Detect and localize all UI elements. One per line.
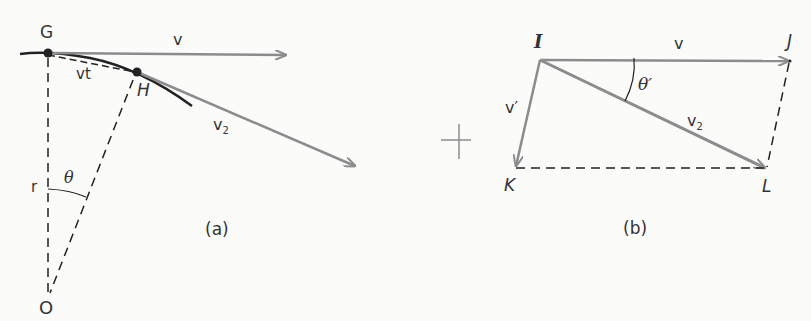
vector-v-prime-ik — [516, 60, 540, 166]
radius-ho-dashed — [50, 80, 133, 293]
label-j: J — [787, 33, 792, 50]
label-v2-a: v2 — [213, 117, 229, 136]
label-v2-b: v2 — [687, 113, 703, 132]
velocity-diagram-figure: G v vt H v2 r θ (a) O I v J v′ θ′ v2 K L… — [0, 0, 811, 321]
label-v-prime: v′ — [505, 100, 518, 116]
label-l: L — [762, 178, 771, 195]
label-theta: θ — [64, 170, 74, 186]
vector-v2-il — [540, 60, 765, 168]
plus-operator-icon — [441, 124, 471, 159]
dashed-jl — [767, 63, 789, 167]
vector-v-ij — [540, 60, 789, 61]
point-j — [789, 60, 792, 63]
label-v-a: v — [173, 32, 182, 48]
caption-a: (a) — [205, 221, 229, 238]
label-g: G — [40, 24, 53, 41]
label-h: H — [137, 82, 150, 99]
vector-v-at-g — [48, 53, 286, 55]
vector-v2-at-h — [137, 72, 355, 166]
label-v-b: v — [674, 36, 683, 52]
label-k: K — [504, 177, 515, 194]
panel-b — [516, 58, 792, 168]
label-v2-a-sub: 2 — [222, 125, 228, 136]
circular-path-arc — [20, 53, 192, 106]
diagram-canvas — [0, 0, 811, 321]
label-v2-b-sub: 2 — [696, 121, 702, 132]
theta-prime-angle-arc — [625, 58, 634, 101]
label-vt: vt — [76, 67, 91, 82]
label-i: I — [534, 33, 542, 51]
label-o: O — [39, 299, 53, 317]
caption-b: (b) — [623, 220, 647, 237]
theta-angle-arc — [48, 189, 86, 197]
label-theta-prime: θ′ — [638, 76, 652, 93]
label-r: r — [31, 180, 37, 195]
point-h — [133, 68, 142, 77]
point-g — [44, 49, 53, 58]
